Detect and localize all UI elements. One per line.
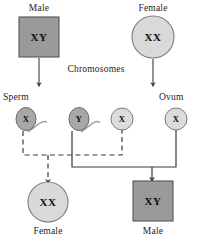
sperm-y-cell [69, 108, 100, 133]
solid-cross-bracket [72, 130, 176, 167]
sperm-x-cell [16, 108, 47, 133]
parent-male-genotype: XY [31, 31, 48, 43]
offspring-female-genotype: XX [40, 196, 57, 208]
parent-female-genotype: XX [145, 31, 162, 43]
offspring-male-label: Male [143, 226, 163, 236]
ovum-x-right-allele: X [173, 114, 179, 124]
offspring-male-genotype: XY [145, 195, 162, 207]
diagram-canvas [0, 0, 197, 242]
chromosomes-caption: Chromosomes [67, 64, 124, 74]
ovum-x-left-allele: X [119, 114, 125, 124]
sperm-y-allele: Y [76, 114, 82, 124]
offspring-female-label: Female [33, 226, 62, 236]
parent-female-label: Female [138, 3, 167, 13]
parent-male-label: Male [29, 3, 49, 13]
sperm-x-allele: X [23, 114, 29, 124]
sex-determination-diagram: Male Female XY XX Chromosomes Sperm Ovum… [0, 0, 197, 242]
sperm-label: Sperm [3, 92, 29, 102]
ovum-label: Ovum [159, 92, 184, 102]
